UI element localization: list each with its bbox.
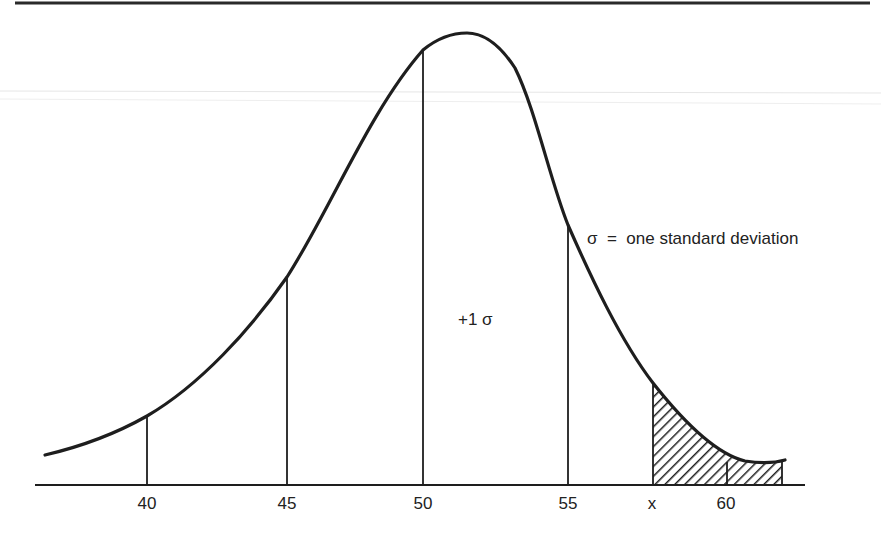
plus-one-sigma-label: +1 σ	[458, 310, 493, 330]
tick-label-50: 50	[414, 494, 433, 514]
sigma-definition-label: σ = one standard deviation	[587, 229, 798, 249]
shaded-tail-region	[653, 370, 783, 486]
scan-artifact-line	[0, 99, 881, 104]
tick-label-40: 40	[138, 494, 157, 514]
scan-artifact-line	[0, 91, 881, 93]
tick-label-60: 60	[717, 494, 736, 514]
normal-distribution-figure	[0, 0, 881, 537]
tick-label-x: x	[648, 494, 657, 514]
tick-label-45: 45	[278, 494, 297, 514]
tick-label-55: 55	[559, 494, 578, 514]
